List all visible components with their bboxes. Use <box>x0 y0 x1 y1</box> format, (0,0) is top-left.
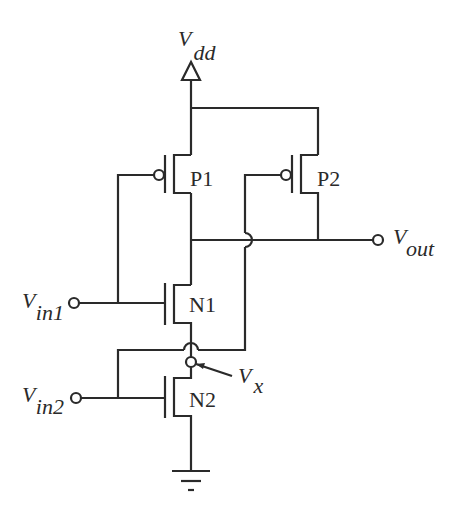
vx-symbol-text: V <box>238 363 251 388</box>
p1-label: P1 <box>190 168 213 190</box>
vx-label: Vx <box>238 365 261 387</box>
vdd-rail <box>191 108 318 155</box>
vdd-subscript: dd <box>193 40 215 65</box>
vin2-subscript: in2 <box>36 394 64 419</box>
nmos-n1-symbol <box>79 283 191 343</box>
vx-node <box>186 357 196 367</box>
vdd-symbol-text: V <box>178 26 191 51</box>
vin1-terminal[interactable] <box>69 298 79 308</box>
vin1-subscript: in1 <box>36 300 64 325</box>
n2-label: N2 <box>189 389 216 411</box>
vin2-symbol-text: V <box>22 382 34 407</box>
vx-subscript: x <box>253 373 263 398</box>
pmos-p1-symbol <box>118 155 191 303</box>
vout-subscript: out <box>406 236 434 261</box>
vin1-label: Vin1 <box>22 290 62 312</box>
vx-arrowhead-icon <box>196 363 205 369</box>
ground-icon <box>172 471 210 490</box>
vout-terminal[interactable] <box>373 235 383 245</box>
vin2-terminal[interactable] <box>71 393 81 403</box>
p2-label: P2 <box>317 168 340 190</box>
vdd-label: Vdd <box>178 28 213 50</box>
pmos-p2-symbol <box>198 155 318 350</box>
vin1-symbol-text: V <box>22 288 34 313</box>
circuit-schematic <box>0 0 456 514</box>
vout-symbol-text: V <box>393 224 404 249</box>
n1-label: N1 <box>189 294 216 316</box>
vin2-label: Vin2 <box>22 384 62 406</box>
nmos-n2-symbol <box>81 367 191 470</box>
vout-label: Vout <box>393 226 432 248</box>
